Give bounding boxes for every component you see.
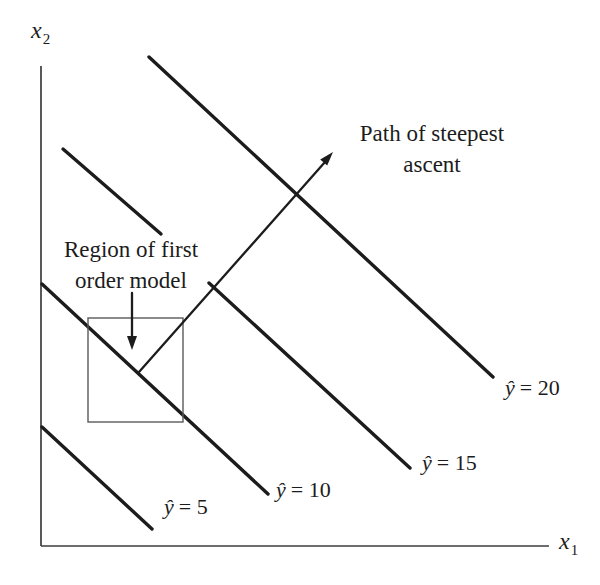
- contour-label-yhat-20: ŷ= 20: [505, 375, 560, 401]
- contour-value: = 20: [520, 375, 560, 400]
- contour-value: = 5: [179, 494, 208, 519]
- contour-line-unlabeled: [63, 149, 161, 234]
- contour-line-yhat-5: [42, 427, 152, 529]
- path-of-steepest-ascent-label: Path of steepest ascent: [344, 118, 520, 180]
- region-of-first-order-model-label: Region of first order model: [53, 234, 209, 296]
- contour-label-yhat-10: ŷ= 10: [276, 477, 331, 503]
- x2-axis-symbol: x: [31, 17, 42, 43]
- contour-label-yhat-15: ŷ= 15: [422, 450, 477, 476]
- region-label-line1: Region of first: [53, 234, 209, 265]
- region-callout-arrowhead-icon: [127, 336, 137, 350]
- x2-axis-label: x2: [31, 17, 50, 48]
- contour-value: = 10: [291, 477, 331, 502]
- yhat-symbol: ŷ: [505, 375, 515, 400]
- region-label-line2: order model: [53, 265, 209, 296]
- contour-value: = 15: [437, 450, 477, 475]
- x1-axis-label: x1: [559, 528, 578, 559]
- yhat-symbol: ŷ: [276, 477, 286, 502]
- x1-axis-symbol: x: [559, 528, 570, 554]
- yhat-symbol: ŷ: [422, 450, 432, 475]
- path-label-line2: ascent: [344, 149, 520, 180]
- contour-line-yhat-20: [149, 57, 493, 377]
- path-label-line1: Path of steepest: [344, 118, 520, 149]
- yhat-symbol: ŷ: [164, 494, 174, 519]
- x2-axis-subscript: 2: [43, 31, 51, 47]
- contour-label-yhat-5: ŷ= 5: [164, 494, 208, 520]
- contour-line-yhat-15: [209, 283, 410, 468]
- steepest-ascent-diagram: x2 x1 Path of steepest ascent Region of …: [0, 0, 600, 585]
- contour-line-yhat-10: [42, 284, 268, 494]
- x1-axis-subscript: 1: [571, 542, 579, 558]
